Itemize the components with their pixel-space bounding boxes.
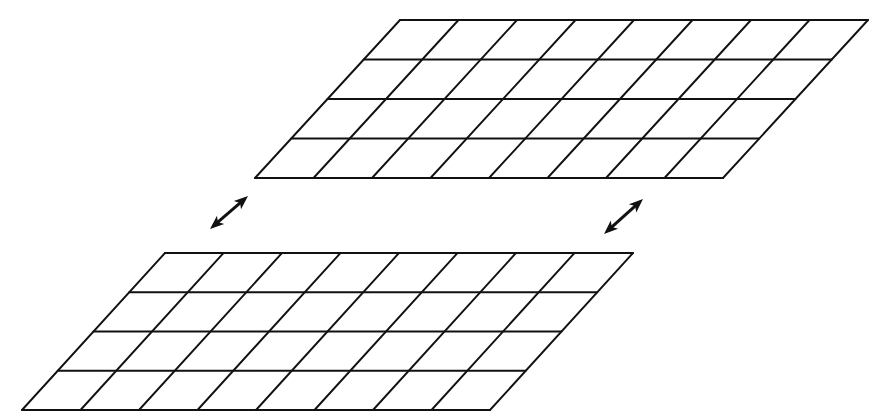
figure-root	[0, 0, 875, 414]
diagram-canvas	[0, 0, 875, 414]
figure-background	[0, 0, 875, 414]
